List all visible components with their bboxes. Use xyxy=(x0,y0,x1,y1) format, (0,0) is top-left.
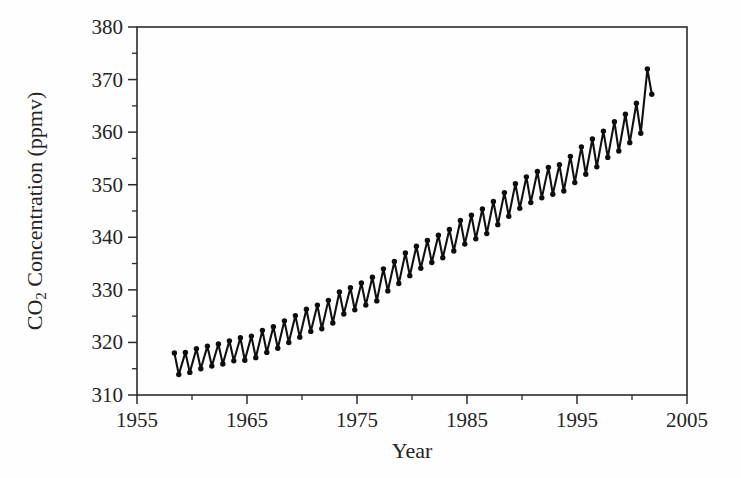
x-axis-title: Year xyxy=(392,438,433,463)
figure-container: 195519651975198519952005 310320330340350… xyxy=(0,0,741,478)
data-point xyxy=(550,191,555,196)
data-point xyxy=(634,101,639,106)
data-point xyxy=(216,341,221,346)
y-tick-label: 360 xyxy=(92,120,124,144)
data-point xyxy=(374,298,379,303)
data-point xyxy=(359,280,364,285)
y-tick-label: 370 xyxy=(92,68,124,92)
y-axis-title: CO2 Concentration (ppmv) xyxy=(22,92,49,330)
data-point xyxy=(403,250,408,255)
data-point xyxy=(396,281,401,286)
data-point xyxy=(352,307,357,312)
data-point xyxy=(348,285,353,290)
data-point xyxy=(579,144,584,149)
data-point xyxy=(392,259,397,264)
data-point xyxy=(528,200,533,205)
data-point xyxy=(176,372,181,377)
y-axis-title-subscript: 2 xyxy=(33,292,49,300)
data-point xyxy=(506,214,511,219)
data-point xyxy=(491,199,496,204)
y-axis-ticks xyxy=(128,27,137,395)
data-point xyxy=(616,148,621,153)
data-point xyxy=(425,238,430,243)
data-point xyxy=(502,190,507,195)
data-point xyxy=(260,328,265,333)
y-axis-title-suffix: Concentration (ppmv) xyxy=(22,92,47,292)
data-point xyxy=(601,128,606,133)
data-point xyxy=(462,241,467,246)
data-point xyxy=(227,338,232,343)
x-tick-label: 1975 xyxy=(336,408,378,432)
data-point xyxy=(315,302,320,307)
co2-data-line xyxy=(174,69,651,374)
data-point xyxy=(645,66,650,71)
data-point xyxy=(172,350,177,355)
data-point xyxy=(308,329,313,334)
x-axis-ticks xyxy=(137,395,687,404)
x-tick-label: 1985 xyxy=(446,408,488,432)
data-point xyxy=(194,346,199,351)
y-tick-label: 340 xyxy=(92,225,124,249)
data-point xyxy=(480,206,485,211)
data-point xyxy=(286,340,291,345)
data-point xyxy=(363,302,368,307)
data-point xyxy=(568,154,573,159)
data-point xyxy=(209,363,214,368)
data-point xyxy=(187,370,192,375)
x-tick-label: 2005 xyxy=(666,408,708,432)
data-point xyxy=(205,343,210,348)
data-point xyxy=(220,361,225,366)
data-point xyxy=(198,366,203,371)
data-point xyxy=(590,136,595,141)
data-point xyxy=(583,172,588,177)
y-tick-label: 380 xyxy=(92,15,124,39)
data-point xyxy=(264,350,269,355)
data-point xyxy=(440,255,445,260)
plot-area-border xyxy=(137,27,687,395)
data-point xyxy=(282,318,287,323)
data-point xyxy=(275,346,280,351)
data-point xyxy=(484,231,489,236)
x-tick-label: 1995 xyxy=(556,408,598,432)
data-point xyxy=(649,92,654,97)
data-point xyxy=(627,140,632,145)
y-axis-title-prefix: CO xyxy=(22,300,47,331)
x-tick-label: 1965 xyxy=(226,408,268,432)
data-point xyxy=(407,273,412,278)
data-point xyxy=(341,311,346,316)
data-point xyxy=(249,333,254,338)
x-tick-label: 1955 xyxy=(116,408,158,432)
data-point xyxy=(539,195,544,200)
data-point xyxy=(326,298,331,303)
data-point xyxy=(436,232,441,237)
data-point xyxy=(414,244,419,249)
data-point xyxy=(612,119,617,124)
data-point xyxy=(447,227,452,232)
data-point xyxy=(451,248,456,253)
data-point xyxy=(330,320,335,325)
y-tick-label: 350 xyxy=(92,173,124,197)
data-point xyxy=(271,324,276,329)
y-tick-label: 330 xyxy=(92,278,124,302)
data-point xyxy=(293,313,298,318)
data-point xyxy=(557,162,562,167)
co2-data-markers xyxy=(172,66,655,377)
data-point xyxy=(469,213,474,218)
data-point xyxy=(473,236,478,241)
data-point xyxy=(513,181,518,186)
data-point xyxy=(594,164,599,169)
data-point xyxy=(418,266,423,271)
data-point xyxy=(238,335,243,340)
data-point xyxy=(304,307,309,312)
x-axis-tick-labels: 195519651975198519952005 xyxy=(116,408,708,432)
data-point xyxy=(297,334,302,339)
data-point xyxy=(429,260,434,265)
data-point xyxy=(183,350,188,355)
data-point xyxy=(535,169,540,174)
data-point xyxy=(370,275,375,280)
data-point xyxy=(231,358,236,363)
data-point xyxy=(458,218,463,223)
y-tick-label: 320 xyxy=(92,330,124,354)
data-point xyxy=(253,355,258,360)
y-axis-tick-labels: 310320330340350360370380 xyxy=(92,15,124,407)
